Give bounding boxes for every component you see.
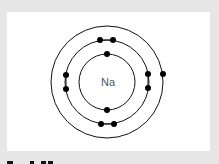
electron-icon bbox=[63, 72, 69, 78]
electron-icon bbox=[104, 51, 110, 57]
electron-icon bbox=[145, 85, 151, 91]
caption-cutoff bbox=[48, 161, 53, 164]
caption-cutoff bbox=[41, 161, 46, 164]
electron-icon bbox=[110, 37, 116, 43]
electron-icon bbox=[98, 121, 104, 127]
electron-icon bbox=[97, 37, 103, 43]
nucleus-label: Na bbox=[101, 76, 116, 88]
electron-icon bbox=[63, 86, 69, 92]
electron-icon bbox=[104, 107, 110, 113]
electron-icon bbox=[111, 121, 117, 127]
electron-icon bbox=[160, 71, 166, 77]
electron-icon bbox=[145, 71, 151, 77]
caption-cutoff bbox=[30, 161, 34, 164]
caption-cutoff bbox=[7, 161, 13, 164]
sodium-atom-diagram: Na bbox=[0, 0, 219, 164]
